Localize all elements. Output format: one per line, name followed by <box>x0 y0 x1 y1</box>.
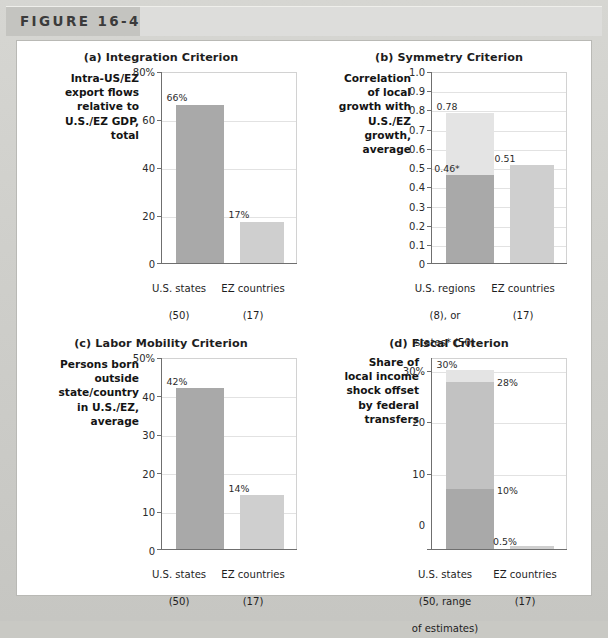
caption-line: outside <box>21 371 139 385</box>
bar-segment-mid <box>446 382 494 489</box>
chart-d-ytick-20: 20 <box>383 417 425 428</box>
chart-b-ytick-0_2: 0.2 <box>389 221 425 232</box>
chart-d-category-1: U.S. states (50, range of estimates) <box>405 555 485 638</box>
chart-a-value-label-2: 17% <box>217 209 261 220</box>
figure-header-bar: FIGURE 16-4 <box>6 6 602 36</box>
chart-d-ytick-0: 0 <box>383 520 425 531</box>
chart-panel-d: (d) Fiscal Criterion Share of local inco… <box>305 333 593 597</box>
tick-mark <box>427 422 431 423</box>
caption-line: relative to <box>23 99 139 113</box>
chart-panel-c: (c) Labor Mobility Criterion Persons bor… <box>17 333 305 597</box>
chart-a-category-2: EZ countries (17) <box>213 269 293 336</box>
chart-c-value-label-2: 14% <box>217 483 261 494</box>
category-line: U.S. states <box>405 568 485 581</box>
category-line: U.S. states <box>143 282 215 295</box>
chart-panel-a: (a) Integration Criterion Intra-US/EZ ex… <box>17 45 305 317</box>
chart-c-title: (c) Labor Mobility Criterion <box>17 337 305 350</box>
tick-mark <box>157 473 161 474</box>
tick-mark <box>157 435 161 436</box>
category-line: (50, range <box>405 595 485 608</box>
chart-d-x-axis <box>431 549 567 550</box>
chart-d-title: (d) Fiscal Criterion <box>305 337 593 350</box>
chart-c-ytick-50: 50% <box>113 353 155 364</box>
chart-c-ytick-20: 20 <box>113 469 155 480</box>
chart-c-value-label-1: 42% <box>145 376 209 387</box>
chart-b-ytick-0_7: 0.7 <box>389 125 425 136</box>
tick-mark <box>427 226 431 227</box>
chart-a-category-1: U.S. states (50) <box>143 269 215 336</box>
chart-d-y-axis <box>431 358 432 550</box>
tick-mark <box>157 168 161 169</box>
tick-mark <box>427 149 431 150</box>
category-line: (8), or <box>407 309 483 322</box>
category-line: (17) <box>483 309 563 322</box>
tick-mark <box>157 263 161 264</box>
chart-d-value-label-30: 30% <box>415 359 479 370</box>
tick-mark <box>427 91 431 92</box>
tick-mark <box>427 474 431 475</box>
chart-b-value-label-078: 0.78 <box>415 101 479 112</box>
category-line: U.S. regions <box>407 282 483 295</box>
category-line: of estimates) <box>405 622 485 635</box>
caption-line: total <box>23 128 139 142</box>
category-line: EZ countries <box>485 568 565 581</box>
chart-c-x-axis <box>161 549 297 550</box>
gridline <box>432 92 566 93</box>
tick-mark <box>427 245 431 246</box>
chart-d-value-label-05: 0.5% <box>483 536 527 547</box>
tick-mark <box>157 358 161 359</box>
tick-mark <box>427 72 431 73</box>
chart-d-ytick-10: 10 <box>383 469 425 480</box>
chart-b-ytick-0_4: 0.4 <box>389 182 425 193</box>
chart-a-y-axis-caption: Intra-US/EZ export flows relative to U.S… <box>23 71 139 142</box>
chart-a-x-axis <box>161 263 297 264</box>
chart-c-category-1: U.S. states (50) <box>143 555 215 622</box>
figure-content-panel: (a) Integration Criterion Intra-US/EZ ex… <box>16 40 592 596</box>
category-line: EZ countries <box>213 568 293 581</box>
chart-a-title: (a) Integration Criterion <box>17 51 305 64</box>
chart-d-bar-us-states <box>446 370 494 549</box>
chart-d-category-2: EZ countries (17) <box>485 555 565 622</box>
chart-a-bar-ez-countries <box>240 222 284 263</box>
category-line: EZ countries <box>213 282 293 295</box>
chart-c-bar-us-states <box>176 388 224 549</box>
header-light-band <box>140 7 602 36</box>
category-line: U.S. states <box>143 568 215 581</box>
chart-b-title: (b) Symmetry Criterion <box>305 51 593 64</box>
chart-b-ytick-0_9: 0.9 <box>389 86 425 97</box>
category-line: (17) <box>485 595 565 608</box>
chart-a-ytick-60: 60 <box>113 115 155 126</box>
tick-mark <box>157 512 161 513</box>
chart-a-ytick-40: 40 <box>113 163 155 174</box>
chart-d-value-label-28: 28% <box>497 377 537 388</box>
caption-line: shock offset <box>313 383 419 397</box>
chart-b-ytick-0_6: 0.6 <box>389 144 425 155</box>
category-line: (17) <box>213 595 293 608</box>
tick-mark <box>157 72 161 73</box>
tick-mark <box>427 130 431 131</box>
caption-line: by federal <box>313 398 419 412</box>
chart-b-bar-ez-countries <box>510 165 554 263</box>
chart-b-category-2: EZ countries (17) <box>483 269 563 336</box>
chart-c-bar-ez-countries <box>240 495 284 549</box>
chart-c-ytick-10: 10 <box>113 507 155 518</box>
chart-c-ytick-40: 40 <box>113 392 155 403</box>
chart-b-bar-us-regions <box>446 113 494 263</box>
category-line: (17) <box>213 309 293 322</box>
category-line: (50) <box>143 595 215 608</box>
tick-mark <box>427 549 431 550</box>
chart-b-ytick-0_1: 0.1 <box>389 240 425 251</box>
category-line: (50) <box>143 309 215 322</box>
tick-mark <box>157 216 161 217</box>
chart-panel-b: (b) Symmetry Criterion Correlation of lo… <box>305 45 593 335</box>
chart-b-ytick-0_3: 0.3 <box>389 202 425 213</box>
chart-b-x-axis <box>431 263 567 264</box>
chart-b-ytick-1_0: 1.0 <box>389 67 425 78</box>
chart-a-bar-us-states <box>176 105 224 263</box>
chart-a-ytick-20: 20 <box>113 211 155 222</box>
category-line: EZ countries <box>483 282 563 295</box>
bar-segment-top <box>446 370 494 382</box>
bar-segment-lower <box>446 175 494 263</box>
tick-mark <box>427 207 431 208</box>
